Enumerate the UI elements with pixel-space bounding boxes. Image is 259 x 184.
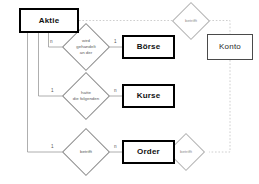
wire-konto-to-betrifft-konto-bottom: [209, 60, 230, 152]
cardinality-aktie-betrifft-order: 1: [51, 145, 54, 150]
entity-order[interactable]: Order: [122, 140, 175, 164]
relationship-betrifft-konto-top[interactable]: betrifft: [172, 1, 210, 41]
er-diagram-canvas: Aktie Börse Kurse Order Konto wird gehan…: [0, 0, 259, 184]
entity-order-label: Order: [137, 148, 160, 156]
entity-boerse[interactable]: Börse: [122, 35, 175, 59]
diamond-shape: [62, 72, 110, 120]
relationship-betrifft-order[interactable]: betrifft: [62, 128, 110, 176]
diamond-shape: [172, 2, 210, 40]
entity-boerse-label: Börse: [137, 43, 161, 51]
entity-konto-label: Konto: [219, 43, 241, 51]
cardinality-boerse-wird-gehandelt: 1: [114, 40, 117, 45]
wire-aktie-to-betrifft-order: [28, 33, 63, 152]
diamond-shape: [62, 128, 110, 176]
cardinality-order-betrifft: n: [114, 145, 117, 150]
cardinality-aktie-hatte-die-folgenden: 1: [51, 89, 54, 94]
entity-aktie-label: Aktie: [39, 17, 60, 25]
entity-kurse-label: Kurse: [137, 92, 161, 100]
entity-aktie[interactable]: Aktie: [19, 8, 79, 33]
wire-betrifft-konto-top-to-konto: [209, 21, 230, 35]
cardinality-kurse-hatte-die-folgenden: n: [114, 89, 117, 94]
cardinality-aktie-wird-gehandelt: n: [50, 40, 53, 45]
relationship-hatte-die-folgenden[interactable]: hatte die folgenden: [62, 72, 110, 120]
entity-kurse[interactable]: Kurse: [122, 84, 175, 108]
entity-konto[interactable]: Konto: [207, 34, 253, 60]
